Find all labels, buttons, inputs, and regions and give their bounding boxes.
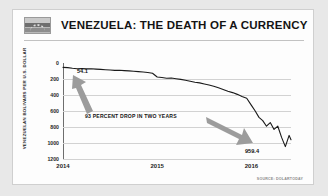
venezuela-flag-icon: [24, 17, 51, 34]
page-title: VENEZUELA: THE DEATH OF A CURRENCY: [61, 19, 308, 31]
y-axis-tick-label: 400: [50, 92, 59, 98]
plot-area: 020040060080010001200 201420152016 54.1 …: [63, 63, 291, 159]
y-axis-tick-label: 800: [50, 124, 59, 130]
gridline: [63, 159, 291, 160]
y-axis-tick-label: 0: [56, 60, 59, 66]
x-axis-tick-label: 2015: [151, 163, 164, 169]
end-value-label: 959.4: [245, 148, 259, 154]
x-axis-tick-label: 2016: [245, 163, 258, 169]
chart-container: VENEZUELAN BOLIVARS PER U.S. DOLLAR 0200…: [13, 41, 313, 186]
y-axis-tick-label: 600: [50, 108, 59, 114]
y-axis-tick-label: 200: [50, 76, 59, 82]
infographic-card: VENEZUELA: THE DEATH OF A CURRENCY VENEZ…: [12, 9, 314, 185]
arrow-up-left-icon: [71, 73, 105, 115]
source-note: SOURCE: DOLARTODAY: [257, 177, 303, 181]
y-axis-tick-label: 1200: [47, 156, 59, 162]
y-axis-tick-label: 1000: [47, 140, 59, 146]
arrow-down-right-icon: [206, 115, 254, 147]
header: VENEZUELA: THE DEATH OF A CURRENCY: [13, 10, 313, 40]
y-axis-title: VENEZUELAN BOLIVARS PER U.S. DOLLAR: [22, 45, 27, 153]
x-axis-tick-label: 2014: [56, 163, 69, 169]
screenshot-root: VENEZUELA: THE DEATH OF A CURRENCY VENEZ…: [0, 0, 328, 196]
